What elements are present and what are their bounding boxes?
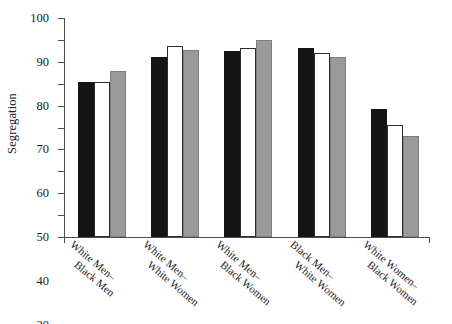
y-axis-tick: 90 <box>58 40 64 41</box>
y-axis-tick-label: 70 <box>37 142 50 157</box>
y-axis-tick-label: 60 <box>37 186 50 201</box>
y-axis-tick: 80 <box>58 62 64 63</box>
bar-group <box>78 18 126 237</box>
y-axis-tick: 60 <box>58 106 64 107</box>
bar <box>387 125 403 237</box>
x-axis-category-label: White Men–Black Men <box>59 238 125 299</box>
bar-group <box>151 18 199 237</box>
y-axis-tick: 70 <box>58 84 64 85</box>
bar-group <box>224 18 272 237</box>
y-axis-tick: 20 <box>58 193 64 194</box>
x-axis-category-label: Black Men–White Women <box>279 238 357 309</box>
bar <box>371 109 387 237</box>
y-axis-tick-label: 80 <box>37 98 50 113</box>
bar-group <box>298 18 346 237</box>
bar <box>403 136 419 237</box>
bar <box>183 50 199 237</box>
y-axis-tick: 10 <box>58 215 64 216</box>
y-axis-tick: 30 <box>58 171 64 172</box>
bar <box>298 48 314 237</box>
bar <box>110 71 126 237</box>
y-axis-title-label: Segregation <box>5 93 20 154</box>
plot-area: 1009080706050403020100 <box>64 18 430 237</box>
x-axis-category-label: White Women–Black Women <box>352 238 429 308</box>
bar <box>224 51 240 237</box>
x-axis-category-labels: White Men–Black MenWhite Men–White Women… <box>64 238 452 324</box>
y-axis-tick-label: 90 <box>37 54 50 69</box>
bar <box>151 57 167 237</box>
y-axis-line <box>64 18 65 237</box>
bar <box>330 57 346 237</box>
bar <box>78 82 94 237</box>
x-axis-category-label: White Men–Black Women <box>206 238 283 308</box>
y-axis-tick-label: 40 <box>37 273 50 288</box>
x-axis-category-label: White Men–White Women <box>132 238 210 309</box>
bar-chart: Segregation 1009080706050403020100 White… <box>0 0 452 324</box>
y-axis-tick-label: 50 <box>37 230 50 245</box>
y-axis-tick: 100 <box>58 18 64 19</box>
y-axis-tick: 50 <box>58 128 64 129</box>
y-axis-tick-label: 30 <box>37 317 50 324</box>
bar <box>167 46 183 237</box>
bar <box>240 48 256 237</box>
bar <box>256 40 272 237</box>
y-axis-tick: 40 <box>58 149 64 150</box>
y-axis-title: Segregation <box>0 0 24 246</box>
bar <box>314 53 330 237</box>
bar <box>94 82 110 237</box>
bar-group <box>371 18 419 237</box>
y-axis-tick-label: 100 <box>30 11 49 26</box>
